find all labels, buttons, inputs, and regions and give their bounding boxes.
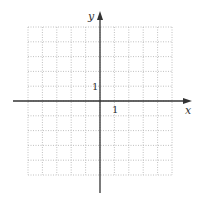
y-axis-arrow-icon	[97, 11, 103, 20]
y-tick-label-1: 1	[92, 81, 98, 92]
x-tick-label-1: 1	[112, 104, 118, 115]
y-axis-label: y	[87, 10, 95, 23]
x-axis-label: x	[185, 104, 192, 117]
coordinate-plane: x y 1 1	[0, 0, 197, 197]
